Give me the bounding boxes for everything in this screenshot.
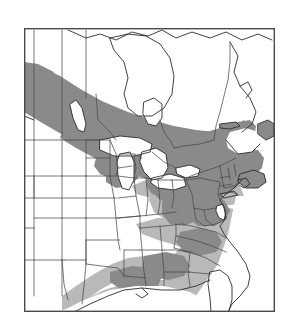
range-map-figure: Primary range Secondary range — [0, 0, 295, 331]
map-frame — [24, 28, 275, 312]
map-canvas — [24, 28, 275, 312]
